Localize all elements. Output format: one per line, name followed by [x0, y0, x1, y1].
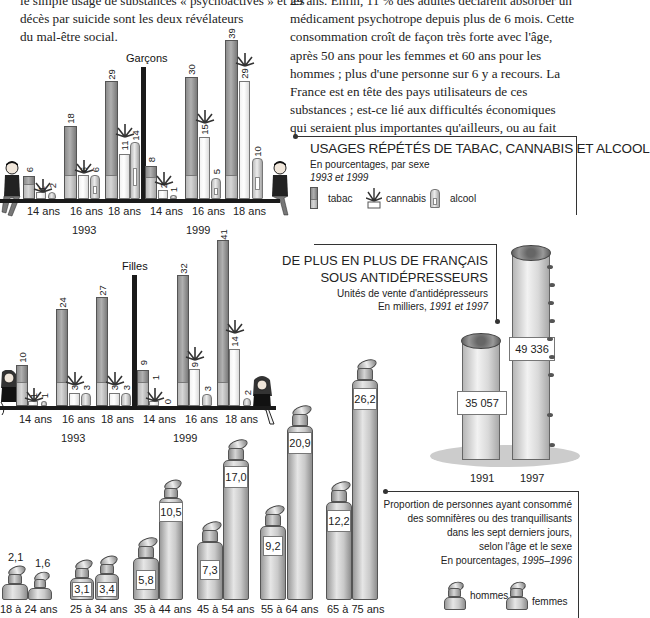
legend-item-hommes: hommes — [444, 582, 514, 612]
text-line: consommation croît de façon très forte a… — [290, 28, 574, 46]
value-label: 41 — [218, 225, 229, 245]
value-label: 26,2 — [353, 388, 377, 410]
bottle-hommes: 5,8 — [133, 538, 159, 600]
legend-label: alcool — [450, 193, 476, 204]
bottle-icon — [430, 189, 440, 208]
age-label: 25 à 34 ans — [70, 603, 128, 615]
cigarette-icon — [310, 187, 318, 209]
year-label: 1991 — [470, 472, 494, 484]
bullet-dot — [495, 319, 500, 324]
tube-lid — [461, 333, 501, 349]
legend-subtitle: Unités de vente d'antidépresseurs — [337, 288, 488, 299]
year-label: 1997 — [520, 472, 544, 484]
unit-prefix: En pourcentages, — [441, 555, 522, 566]
bottle-hommes: 9,2 — [260, 506, 286, 600]
value-label: 12,2 — [327, 510, 351, 532]
legend-title: USAGES RÉPÉTÉS DE TABAC, CANNABIS ET ALC… — [310, 141, 650, 156]
legend-usages: USAGES RÉPÉTÉS DE TABAC, CANNABIS ET ALC… — [296, 136, 577, 215]
text-line: après 50 ans pour les femmes et 60 ans p… — [290, 47, 574, 65]
legend-line: selon l'âge et le sexe — [384, 540, 572, 554]
value-label: 27 — [97, 281, 108, 301]
bottle-hommes — [2, 566, 28, 600]
chart-somniferes: 2,1 1,6 18 à 24 ans 3,1 3,4 25 à 34 ans … — [0, 360, 400, 617]
age-label: 35 à 44 ans — [134, 603, 192, 615]
legend-line: dans les sept derniers jours, — [384, 526, 572, 540]
age-label: 55 à 64 ans — [261, 603, 319, 615]
value-label: 5,8 — [136, 570, 156, 590]
bullet-dot — [383, 489, 388, 494]
legend-label: cannabis — [386, 193, 426, 204]
group-label-filles: Filles — [122, 260, 148, 272]
pill-bottle-tall-icon — [506, 582, 528, 610]
value-label: 24 — [57, 293, 68, 313]
legend-subtitle: En pourcentages, par sexe — [310, 159, 430, 170]
age-label: 18 à 24 ans — [0, 603, 58, 615]
value-label: 3,1 — [72, 582, 92, 597]
legend-line: En pourcentages, 1995–1996 — [384, 554, 572, 568]
bottle-femmes: 10,5 — [159, 480, 183, 600]
cannabis-leaf-icon — [366, 187, 382, 209]
legend-label: tabac — [328, 193, 352, 204]
legend-somniferes: Proportion de personnes ayant consommé d… — [386, 491, 579, 618]
legend-label: femmes — [532, 596, 568, 607]
value-label: 17,0 — [224, 466, 248, 488]
bottle-hommes: 7,3 — [197, 522, 223, 600]
body-text-right: 29 ans. Enfin, 11 % des adultes déclaren… — [290, 0, 574, 138]
text-line: médicament psychotrope depuis plus de 6 … — [290, 10, 574, 28]
legend-title: DE PLUS EN PLUS DE FRANÇAIS — [282, 253, 488, 268]
bottle-femmes: 26,2 — [352, 360, 378, 600]
text-line: hommes ; plus d'une personne sur 6 y a r… — [290, 65, 574, 83]
unit-prefix: En milliers, — [378, 301, 430, 312]
bottle-hommes: 3,1 — [70, 560, 94, 600]
pill-bottle-small-icon — [444, 582, 466, 610]
text-line: 29 ans. Enfin, 11 % des adultes déclaren… — [290, 0, 574, 10]
bottle-hommes: 12,2 — [326, 482, 352, 600]
bottle-femmes: 20,9 — [287, 406, 313, 600]
text-line: substances ; est-ce lié aux difficultés … — [290, 101, 574, 119]
value-label: 7,3 — [200, 560, 220, 580]
years: 1995–1996 — [522, 555, 572, 566]
value-label: 10,5 — [159, 502, 183, 522]
legend-label: hommes — [470, 590, 508, 601]
tube-lid — [511, 245, 551, 261]
value-label-hommes: 2,1 — [8, 551, 23, 563]
value-label: 20,9 — [288, 432, 312, 454]
bottle-femmes: 3,4 — [95, 556, 119, 600]
legend-item-femmes: femmes — [506, 582, 576, 612]
text-line: qui seraient plus importantes qu'ailleur… — [290, 119, 574, 137]
value-label: 3,4 — [97, 582, 117, 597]
bar-1997: 49 336 — [512, 252, 550, 460]
value-label: 32 — [178, 259, 189, 279]
value-label: 14 — [229, 332, 240, 352]
years: 1991 et 1997 — [430, 301, 488, 312]
value-label-femmes: 1,6 — [35, 557, 50, 569]
legend-item-alcool: alcool — [430, 187, 510, 209]
pill-chain-icon — [546, 255, 558, 465]
value-label: 9,2 — [263, 536, 283, 556]
text-line: France est en tête des pays utilisateurs… — [290, 83, 574, 101]
legend-title: SOUS ANTIDÉPRESSEURS — [320, 270, 488, 285]
bottle-femmes — [28, 572, 52, 600]
bar-1991: 35 057 — [462, 340, 500, 460]
age-label: 45 à 54 ans — [197, 603, 255, 615]
value-label: 35 057 — [457, 391, 507, 415]
legend-line: Proportion de personnes ayant consommé — [384, 498, 572, 512]
legend-line: des somnifères ou des tranquillisants — [384, 512, 572, 526]
bottle-femmes: 17,0 — [223, 440, 249, 600]
legend-antidep: DE PLUS EN PLUS DE FRANÇAIS SOUS ANTIDÉP… — [314, 244, 497, 321]
legend-years: 1993 et 1999 — [310, 172, 368, 183]
legend-unit: En milliers, 1991 et 1997 — [378, 301, 488, 312]
age-label: 65 à 75 ans — [327, 603, 385, 615]
legend-text: Proportion de personnes ayant consommé d… — [384, 498, 572, 568]
